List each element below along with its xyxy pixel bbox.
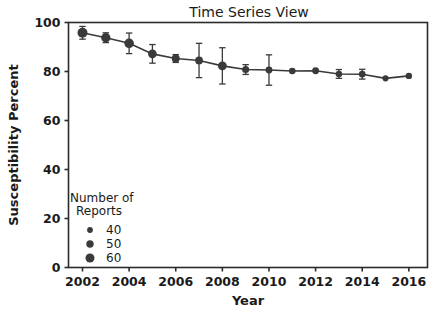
time-series-chart: Time Series View 020406080100 2002200420… <box>0 0 443 320</box>
legend-label: 60 <box>106 251 121 265</box>
x-axis-title: Year <box>231 293 265 308</box>
data-point[interactable]: 2005: 87.2% <box>148 50 157 59</box>
x-tick-label: 2016 <box>391 274 426 289</box>
x-tick-label: 2002 <box>65 274 100 289</box>
data-point[interactable]: 2014: 78.9% <box>359 71 366 78</box>
chart-title: Time Series View <box>188 4 308 20</box>
data-point[interactable]: 2003: 93.8% <box>101 33 110 42</box>
legend-marker <box>86 240 93 247</box>
legend-title-line1: Number of <box>70 191 134 205</box>
y-axis-title: Susceptibility Percent <box>6 64 21 226</box>
x-tick-label: 2012 <box>298 274 333 289</box>
data-point[interactable]: 2016: 78.2% <box>406 73 412 79</box>
y-tick-label: 80 <box>43 64 61 79</box>
x-tick-label: 2004 <box>112 274 147 289</box>
data-point[interactable]: 2011: 80.2% <box>289 68 296 75</box>
y-tick-label: 0 <box>52 260 61 275</box>
data-point[interactable]: 2013: 79% <box>336 71 342 77</box>
data-point[interactable]: 2009: 80.8% <box>242 66 249 73</box>
data-point[interactable]: 2010: 80.6% <box>266 67 273 74</box>
data-point[interactable]: 2012: 80.3% <box>312 67 319 74</box>
data-point[interactable]: 2006: 85.3% <box>172 55 180 63</box>
chart-figure: Time Series View 020406080100 2002200420… <box>0 0 443 320</box>
data-point[interactable]: 2008: 82.3% <box>218 61 227 70</box>
legend-label: 40 <box>106 223 121 237</box>
legend-label: 50 <box>106 237 121 251</box>
legend-marker <box>86 254 95 263</box>
y-tick-label: 40 <box>43 162 61 177</box>
y-tick-label: 20 <box>43 211 61 226</box>
legend-marker <box>87 227 93 233</box>
legend-title-line2: Reports <box>76 204 122 218</box>
x-tick-label: 2014 <box>345 274 380 289</box>
x-tick-label: 2008 <box>205 274 240 289</box>
data-point[interactable]: 2015: 77.2% <box>382 75 388 81</box>
data-point[interactable]: 2004: 91.5% <box>124 39 134 49</box>
x-tick-label: 2010 <box>252 274 287 289</box>
x-tick-label: 2006 <box>158 274 193 289</box>
data-point[interactable]: 2007: 84.5% <box>195 57 203 65</box>
y-tick-label: 60 <box>43 113 61 128</box>
y-tick-label: 100 <box>34 15 60 30</box>
data-point[interactable]: 2002: 95.8% <box>77 28 87 38</box>
